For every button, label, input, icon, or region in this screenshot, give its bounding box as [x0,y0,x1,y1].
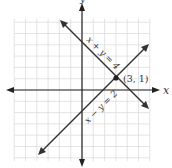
coordinate-plane: x y (3, 1) x + y = 4 x − y = 2 [0,0,172,168]
intersection-label: (3, 1) [123,73,149,84]
x-axis-label: x [163,84,170,97]
x-axis-arrow-left-icon [6,87,14,93]
y-axis-arrow-up-icon [79,3,85,11]
y-axis-arrow-down-icon [79,159,85,167]
line1-label: x + y = 4 [85,34,122,71]
intersection-point [113,75,118,80]
y-axis-label: y [79,0,86,4]
x-axis-arrow-right-icon [152,87,160,93]
line2-label: x − y = 2 [82,88,119,125]
